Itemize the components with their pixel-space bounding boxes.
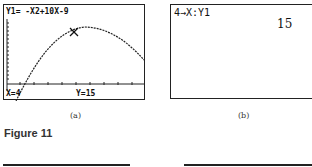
calculator-graph-screen: Y1= -X2+10X-9 X=4 Y=15 [3, 4, 145, 100]
result-value: 15 [277, 20, 292, 29]
equation-label: Y1= -X2+10X-9 [6, 7, 69, 16]
next-figure-top-border-left [3, 164, 130, 166]
caption-a: (a) [70, 111, 81, 120]
caption-b: (b) [238, 111, 249, 120]
cursor-y-value: Y=15 [76, 89, 95, 98]
cursor-x-value: X=4 [6, 89, 20, 98]
calculator-home-screen: 4→X:Y1 15 [170, 4, 312, 99]
figure-label: Figure 11 [4, 127, 52, 139]
parabola-graph [4, 5, 146, 101]
next-figure-top-border-right [184, 164, 312, 166]
command-line: 4→X:Y1 [174, 8, 210, 17]
